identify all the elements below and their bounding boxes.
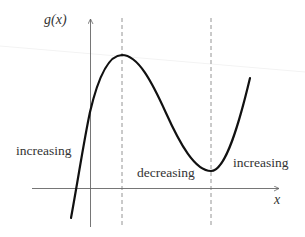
- y-axis-label: g(x): [44, 12, 67, 28]
- label-decreasing: decreasing: [137, 165, 195, 180]
- x-axis-label: x: [273, 192, 281, 207]
- background-artifact: [0, 46, 305, 72]
- function-plot: g(x) x increasing decreasing increasing: [0, 0, 305, 237]
- label-increasing-left: increasing: [16, 143, 72, 158]
- label-increasing-right: increasing: [233, 155, 289, 170]
- function-curve: [71, 55, 250, 218]
